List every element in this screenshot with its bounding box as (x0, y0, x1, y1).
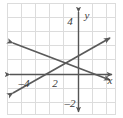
coordinate-plane: –4 2 4 –2 y x (0, 0, 123, 118)
y-tick-label-4: 4 (67, 15, 73, 27)
y-axis-label: y (84, 9, 90, 21)
y-tick-label-neg2: –2 (64, 97, 77, 109)
x-tick-label-2: 2 (52, 77, 58, 89)
x-tick-label-neg4: –4 (18, 77, 31, 89)
x-axis-label: x (107, 74, 113, 86)
graph-figure: –4 2 4 –2 y x (0, 0, 123, 118)
